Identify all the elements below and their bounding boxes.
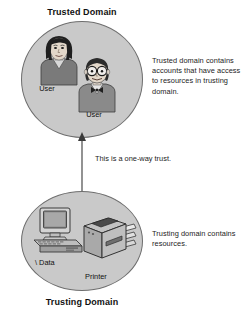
person-female-icon [38,33,80,85]
user-2-label: User [77,110,111,119]
diagram-canvas: Trusted Domain [0,0,249,317]
printer-icon [78,208,138,272]
user-1-label: User [30,84,64,93]
person-male-glasses-icon [75,54,119,112]
trusted-domain-note: Trusted domain contains accounts that ha… [152,56,248,97]
trusting-domain-title: Trusting Domain [0,297,164,308]
trusting-domain-note: Trusting domain contains resources. [152,229,248,249]
data-share-label: \ Data [35,258,75,267]
trust-direction-label: This is a one-way trust. [95,154,171,164]
trusted-domain-title: Trusted Domain [0,7,164,18]
printer-label: Printer [85,272,125,281]
